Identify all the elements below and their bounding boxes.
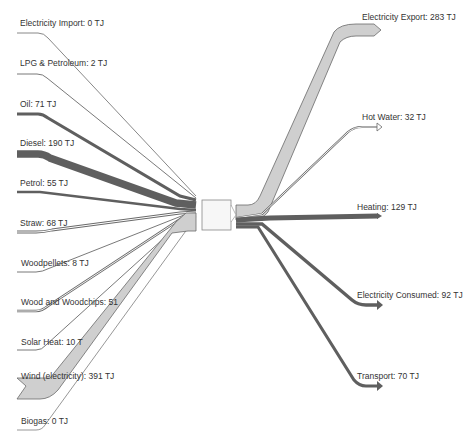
label-lpg-petroleum: LPG & Petroleum: 2 TJ [20,58,107,68]
heating-arrowhead [377,213,382,219]
hot-water-arrowhead [377,123,382,131]
label-transport: Transport: 70 TJ [357,371,419,381]
flow-transport[interactable] [236,227,378,386]
label-heating: Heating: 129 TJ [357,202,417,212]
label-biogas: Biogas: 0 TJ [21,416,68,426]
label-hot-water: Hot Water: 32 TJ [362,112,426,122]
label-oil: Oil: 71 TJ [20,99,56,109]
label-solar-heat: Solar Heat: 10 T [21,337,83,347]
transport-arrowhead [377,381,383,391]
flow-heating[interactable] [236,216,378,220]
hub-arrow-notch [231,205,236,222]
flow-solar-heat[interactable] [17,218,196,350]
hub-node[interactable] [202,200,231,230]
label-wind-electricity: Wind (electricity): 391 TJ [21,371,114,381]
label-woodpellets: Woodpellets: 8 TJ [21,258,89,268]
label-diesel: Diesel: 190 TJ [20,138,74,148]
label-petrol: Petrol: 55 TJ [20,178,68,188]
label-straw: Straw: 68 TJ [20,218,68,228]
electricity-consumed-arrowhead [377,300,383,310]
flow-biogas[interactable] [17,226,196,430]
label-electricity-import: Electricity Import: 0 TJ [20,18,104,28]
label-electricity-consumed: Electricity Consumed: 92 TJ [357,290,463,300]
flow-electricity-export[interactable] [236,24,381,220]
label-electricity-export: Electricity Export: 283 TJ [362,12,456,22]
label-wood-woodchips: Wood and Woodchips: 51 [21,297,118,307]
